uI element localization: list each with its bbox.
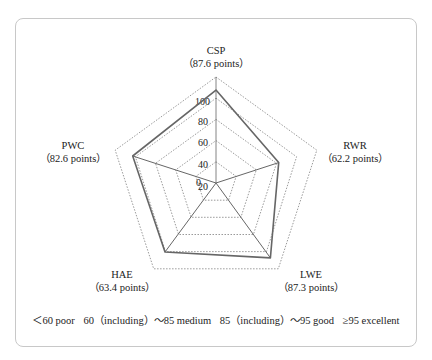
svg-text:60: 60: [198, 137, 208, 148]
axis-name-csp: CSP: [207, 45, 226, 56]
axis-label-pwc: PWC （82.6 points）: [28, 139, 118, 165]
axis-name-hae: HAE: [111, 269, 133, 280]
axis-score-lwe: （87.3 points）: [266, 281, 356, 294]
axis-score-csp: （87.6 points）: [176, 57, 256, 70]
axis-name-rwr: RWR: [343, 140, 366, 151]
axis-score-rwr: （62.2 points）: [310, 152, 400, 165]
svg-text:40: 40: [198, 159, 208, 170]
axis-label-csp: CSP （87.6 points）: [176, 44, 256, 70]
grade-legend: ＜60 poor 60（including）～85 medium 85（incl…: [0, 312, 432, 327]
svg-text:80: 80: [198, 116, 208, 127]
axis-label-rwr: RWR （62.2 points）: [310, 139, 400, 165]
legend-excellent: ≥95 excellent: [343, 315, 400, 326]
zero-tick: 0: [196, 176, 201, 189]
legend-good: 85（including）～95 good: [220, 315, 334, 326]
axis-name-lwe: LWE: [300, 269, 322, 280]
axis-label-lwe: LWE （87.3 points）: [266, 268, 356, 294]
axis-name-pwc: PWC: [62, 140, 85, 151]
legend-poor: ＜60 poor: [32, 315, 74, 326]
axis-score-pwc: （82.6 points）: [28, 152, 118, 165]
legend-medium: 60（including）～85 medium: [83, 315, 211, 326]
axis-score-hae: （63.4 points）: [77, 281, 167, 294]
axis-label-hae: HAE （63.4 points）: [77, 268, 167, 294]
